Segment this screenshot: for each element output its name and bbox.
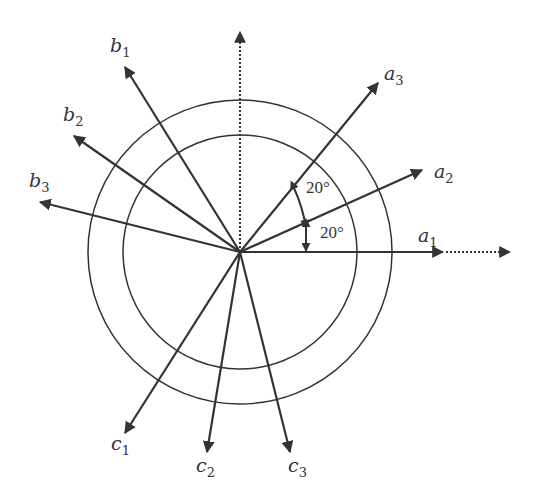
label-b3: b3 <box>29 169 49 195</box>
angle-label-upper: 20° <box>306 178 330 197</box>
vector-c3 <box>240 252 290 452</box>
label-a2: a2 <box>434 160 454 186</box>
angle-marker-a2-a3 <box>294 188 306 228</box>
label-b1: b1 <box>110 34 130 60</box>
vector-c2 <box>207 252 240 452</box>
diagram-svg: 20° 20° a1 a2 a3 b1 b2 b3 c1 c2 c3 <box>0 0 533 500</box>
label-b2: b2 <box>63 103 83 129</box>
label-c3: c3 <box>288 454 307 480</box>
vector-c1 <box>125 252 240 433</box>
label-c1: c1 <box>111 432 130 458</box>
phasor-diagram: 20° 20° a1 a2 a3 b1 b2 b3 c1 c2 c3 <box>0 0 533 500</box>
angle-label-lower: 20° <box>320 223 344 242</box>
vector-b1 <box>125 67 240 252</box>
label-a1: a1 <box>418 224 438 250</box>
label-c2: c2 <box>196 454 215 480</box>
vector-a3 <box>240 83 378 252</box>
label-a3: a3 <box>384 62 404 88</box>
vector-b3 <box>40 202 240 252</box>
